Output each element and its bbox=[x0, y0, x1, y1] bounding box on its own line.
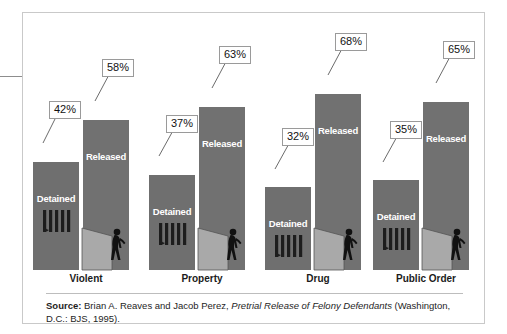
cat-label-public-order: Public Order bbox=[371, 273, 481, 284]
bar-series-label-released: Released bbox=[423, 133, 469, 144]
open-door-person-icon bbox=[422, 222, 470, 270]
bar-series-label-released: Released bbox=[83, 151, 129, 162]
bar-series-label-released: Released bbox=[199, 138, 245, 149]
callout-violent-released: 58% bbox=[102, 59, 134, 77]
callout-property-released: 63% bbox=[219, 46, 251, 64]
bar-drug-released[interactable]: Released bbox=[315, 94, 361, 270]
open-door-person-icon bbox=[198, 222, 246, 270]
bar-series-label-released: Released bbox=[315, 125, 361, 136]
bar-violent-detained[interactable]: Detained bbox=[33, 162, 79, 270]
source-title: Pretrial Release of Felony Defendants bbox=[231, 300, 392, 311]
callout-drug-detained: 32% bbox=[282, 128, 314, 146]
open-door-person-icon bbox=[82, 222, 130, 270]
bar-series-label-detained: Detained bbox=[149, 206, 195, 217]
callout-public-order-detained: 35% bbox=[390, 121, 422, 139]
cat-label-drug: Drug bbox=[263, 273, 373, 284]
jail-bars-icon bbox=[273, 234, 303, 260]
callout-violent-detained: 42% bbox=[49, 101, 81, 119]
source-note: Source: Brian A. Reaves and Jacob Perez,… bbox=[46, 300, 470, 325]
jail-bars-icon bbox=[157, 222, 187, 248]
bar-drug-detained[interactable]: Detained bbox=[265, 187, 311, 270]
cat-label-violent: Violent bbox=[31, 273, 141, 284]
callout-public-order-released: 65% bbox=[443, 41, 475, 59]
bar-group-violent: Detained Released bbox=[31, 13, 141, 270]
cat-label-property: Property bbox=[147, 273, 257, 284]
jail-bars-icon bbox=[381, 227, 411, 253]
bar-property-detained[interactable]: Detained bbox=[149, 175, 195, 270]
bar-public-order-detained[interactable]: Detained bbox=[373, 180, 419, 270]
bar-public-order-released[interactable]: Released bbox=[423, 102, 469, 270]
source-label: Source: bbox=[46, 300, 81, 311]
callout-drug-released: 68% bbox=[335, 33, 367, 51]
bar-group-drug: Detained Released bbox=[263, 13, 373, 270]
open-door-person-icon bbox=[314, 222, 362, 270]
source-divider bbox=[46, 293, 463, 294]
chart-figure: Detained Released bbox=[22, 12, 485, 324]
bar-property-released[interactable]: Released bbox=[199, 107, 245, 270]
source-authors: Brian A. Reaves and Jacob Perez, bbox=[84, 300, 229, 311]
plot-area: Detained Released bbox=[23, 13, 484, 270]
bar-series-label-detained: Detained bbox=[373, 211, 419, 222]
bar-series-label-detained: Detained bbox=[265, 218, 311, 229]
bar-series-label-detained: Detained bbox=[33, 193, 79, 204]
callout-property-detained: 37% bbox=[166, 115, 198, 133]
jail-bars-icon bbox=[41, 209, 71, 235]
category-axis: Violent Property Drug Public Order bbox=[23, 271, 484, 289]
left-margin-rule bbox=[0, 76, 23, 77]
bar-violent-released[interactable]: Released bbox=[83, 120, 129, 270]
